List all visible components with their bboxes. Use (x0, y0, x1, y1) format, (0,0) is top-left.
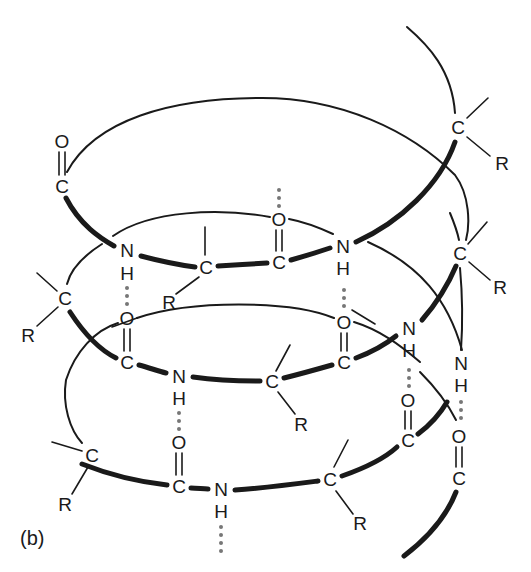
atom-o: O (120, 308, 135, 329)
atom-o: O (337, 312, 352, 333)
atom-c-alpha: C (323, 469, 337, 490)
backbone-c2-n2 (291, 248, 330, 260)
backbone-n4-ca-right (422, 266, 456, 320)
hbond-h2-o4 (342, 288, 346, 308)
atom-o: O (172, 432, 187, 453)
atom-h: H (172, 388, 186, 409)
atom-n: N (454, 353, 468, 374)
atom-h: H (454, 375, 468, 396)
backbone-n1-ca1 (141, 256, 195, 267)
backbone-c4-n4 (356, 336, 396, 358)
hbond-h3-o7 (177, 411, 181, 431)
backbone-top-tail (407, 27, 455, 113)
atom-c: C (55, 176, 69, 197)
backbone-top-loop (67, 98, 468, 240)
backbone-n5-up (460, 268, 462, 350)
atom-n: N (214, 479, 228, 500)
hbond-h4-o5 (407, 368, 411, 388)
atom-r: R (353, 513, 367, 534)
atom-n: N (172, 366, 186, 387)
backbone-c6-tail (404, 492, 456, 556)
atom-h: H (214, 501, 228, 522)
atom-c-alpha: C (265, 371, 279, 392)
backbone-c1-n1 (66, 198, 114, 246)
backbone-ca1-c2 (218, 263, 267, 266)
hbond-below-h7 (219, 525, 223, 553)
backbone-ca-left-c3 (70, 312, 116, 358)
atom-c-alpha: C (85, 445, 99, 466)
backbone-c5-up (418, 402, 447, 434)
atom-h: H (402, 340, 416, 361)
atom-r: R (294, 414, 308, 435)
atom-r: R (162, 292, 176, 313)
backbone-n7-ca-br (235, 481, 318, 490)
atom-o: O (272, 209, 287, 230)
backbone-c7-n7 (191, 488, 208, 489)
alpha-helix-diagram: O C N H C R O C N H C R C R C R O C N H … (0, 0, 531, 572)
atom-h: H (336, 258, 350, 279)
atom-r: R (495, 153, 509, 174)
atom-r: R (493, 277, 507, 298)
backbone-n2-ca-top (356, 142, 455, 242)
backbone-to-ca-right (450, 213, 459, 240)
backbone-ca3-c4 (284, 365, 332, 378)
atom-n: N (402, 318, 416, 339)
atom-c: C (272, 252, 286, 273)
atom-r: R (58, 494, 72, 515)
backbone-second-loop-left (67, 244, 102, 284)
backbone-n3-ca3 (193, 377, 260, 381)
backbone-o2-n2 (289, 219, 333, 234)
atom-c-alpha: C (199, 257, 213, 278)
atom-c-alpha: C (451, 117, 465, 138)
backbone-second-loop-back (113, 212, 270, 236)
backbone-c3-n3 (139, 365, 166, 373)
atom-o: O (55, 131, 70, 152)
panel-label: (b) (20, 527, 44, 549)
atom-o: O (452, 426, 467, 447)
atom-c-alpha: C (453, 243, 467, 264)
atom-n: N (336, 236, 350, 257)
atom-c: C (120, 352, 134, 373)
hbond-h5-o6 (459, 400, 463, 420)
atom-c-alpha: C (58, 288, 72, 309)
hbond-above-o2 (277, 188, 281, 208)
atom-c: C (337, 352, 351, 373)
atom-o: O (401, 390, 416, 411)
backbone-ca-bl-c7 (82, 464, 167, 485)
atom-c: C (452, 468, 466, 489)
atom-c: C (172, 476, 186, 497)
hbond-h1-o3 (125, 286, 129, 306)
atom-r: R (21, 325, 35, 346)
atom-n: N (120, 240, 134, 261)
atom-c: C (401, 430, 415, 451)
atom-h: H (120, 263, 134, 284)
backbone-ca-br-c5 (342, 447, 397, 476)
